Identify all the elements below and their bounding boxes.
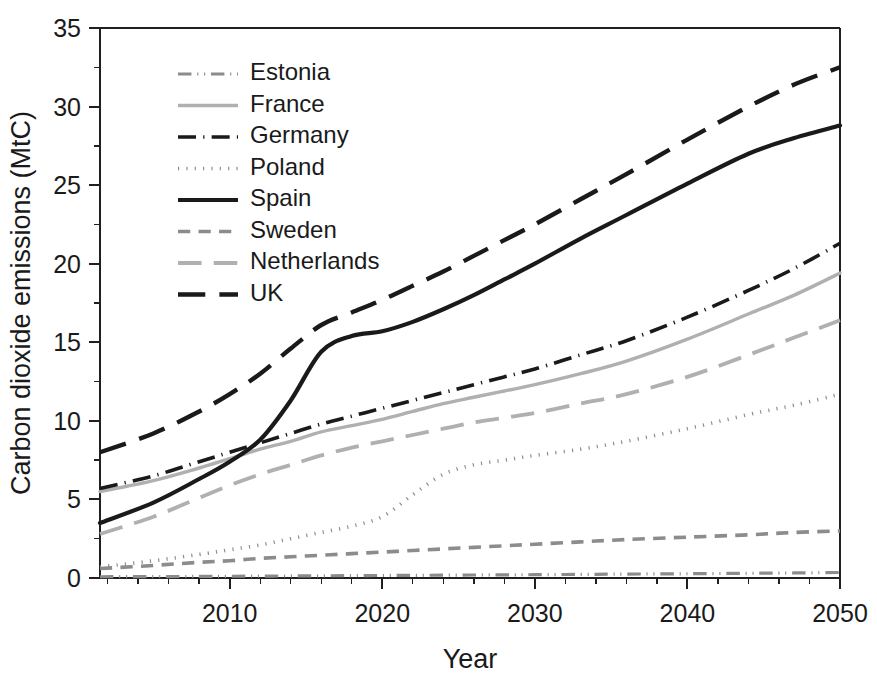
series-line-netherlands [100, 320, 840, 534]
series-line-uk [100, 67, 840, 452]
x-tick-label: 2030 [507, 599, 563, 627]
legend-label-estonia: Estonia [250, 58, 331, 85]
y-tick-label: 0 [67, 564, 81, 592]
x-tick-label: 2020 [354, 599, 410, 627]
legend-label-sweden: Sweden [250, 216, 337, 243]
axis-frame [100, 28, 840, 578]
chart-container: 05101520253035 20102020203020402050 Esto… [0, 0, 877, 682]
legend-label-spain: Spain [250, 184, 311, 211]
x-axis-title: Year [443, 644, 498, 674]
legend-label-france: France [250, 90, 325, 117]
y-tick-label: 20 [53, 250, 81, 278]
y-tick-label: 5 [67, 485, 81, 513]
x-axis-ticks [108, 578, 840, 589]
series-line-poland [100, 394, 840, 567]
y-axis-ticks [89, 28, 100, 578]
y-axis-tick-labels: 05101520253035 [53, 14, 81, 592]
series-line-germany [100, 243, 840, 488]
emissions-line-chart: 05101520253035 20102020203020402050 Esto… [0, 0, 877, 682]
x-tick-label: 2040 [660, 599, 716, 627]
y-tick-label: 35 [53, 14, 81, 42]
legend-label-germany: Germany [250, 121, 349, 148]
series-line-estonia [100, 573, 840, 577]
y-tick-label: 25 [53, 171, 81, 199]
x-axis-tick-labels: 20102020203020402050 [202, 599, 868, 627]
chart-legend: EstoniaFranceGermanyPolandSpainSwedenNet… [178, 58, 379, 306]
y-tick-label: 10 [53, 407, 81, 435]
legend-label-poland: Poland [250, 153, 325, 180]
y-axis-title: Carbon dioxide emissions (MtC) [6, 111, 36, 495]
x-tick-label: 2010 [202, 599, 258, 627]
legend-label-uk: UK [250, 279, 283, 306]
x-tick-label: 2050 [812, 599, 868, 627]
y-tick-label: 30 [53, 93, 81, 121]
y-tick-label: 15 [53, 328, 81, 356]
data-series-group [100, 67, 840, 576]
series-line-sweden [100, 531, 840, 569]
legend-label-netherlands: Netherlands [250, 247, 379, 274]
